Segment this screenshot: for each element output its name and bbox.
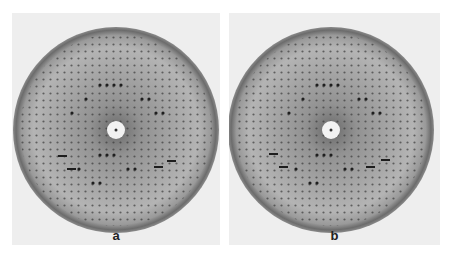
diffraction-pattern-a	[12, 13, 220, 245]
diffraction-panel-a: a	[12, 13, 220, 245]
panel-label-a: a	[12, 228, 220, 243]
panel-label-b: b	[229, 228, 440, 243]
diffraction-pattern-b	[229, 13, 440, 245]
diffraction-panel-b: b	[229, 13, 440, 245]
